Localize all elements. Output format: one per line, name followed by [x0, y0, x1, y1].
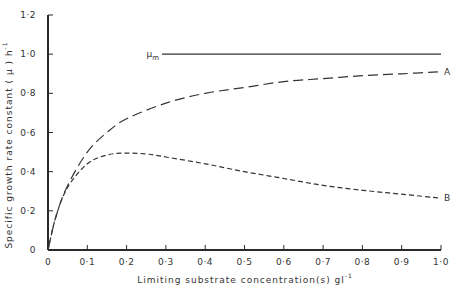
x-tick-label: 0·5 — [237, 257, 253, 267]
labels: 00·10·20·30·40·50·60·70·80·91·000·20·40·… — [1, 10, 451, 285]
x-tick-label: 0·3 — [158, 257, 174, 267]
curve-a-label: A — [444, 67, 451, 77]
y-tick-label: 0·8 — [20, 88, 36, 98]
x-tick-label: 0·2 — [119, 257, 135, 267]
y-tick-label: 0 — [30, 245, 36, 255]
y-tick-label: 0·4 — [20, 167, 36, 177]
axes — [48, 15, 441, 250]
y-axis-label: Specific growth rate constant ( μ ) h-1 — [1, 41, 14, 248]
tick-marks — [48, 15, 441, 250]
data-series — [48, 54, 441, 250]
series-b-line — [48, 153, 441, 250]
y-tick-label: 1·0 — [20, 49, 36, 59]
x-tick-label: 0·8 — [354, 257, 370, 267]
series-a-line — [48, 72, 441, 250]
growth-rate-chart: 00·10·20·30·40·50·60·70·80·91·000·20·40·… — [0, 0, 462, 291]
y-tick-label: 0·6 — [20, 128, 36, 138]
x-tick-label: 0·4 — [197, 257, 213, 267]
x-tick-label: 0 — [45, 257, 51, 267]
curve-b-label: B — [444, 193, 450, 203]
x-tick-label: 0·7 — [315, 257, 331, 267]
mu-max-label: μm — [146, 49, 159, 62]
x-axis-label: Limiting substrate concentration(s) gl-1 — [137, 272, 353, 285]
x-tick-label: 0·6 — [276, 257, 292, 267]
x-tick-label: 0·1 — [79, 257, 95, 267]
x-tick-label: 0·9 — [394, 257, 410, 267]
y-tick-label: 0·2 — [20, 206, 36, 216]
x-tick-label: 1·0 — [433, 257, 449, 267]
y-tick-label: 1·2 — [20, 10, 36, 20]
